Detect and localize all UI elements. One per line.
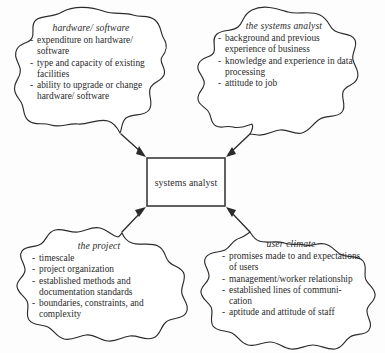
list-item-text: ability to upgrade or change hardware/ s… xyxy=(37,80,142,101)
bullet-dash: - xyxy=(222,251,225,262)
list-item: -knowledge and experience in data proces… xyxy=(218,56,354,79)
list-item: -established lines of communi- cation xyxy=(222,285,366,308)
bullet-dash: - xyxy=(30,58,33,69)
arrow-line-systems-analyst xyxy=(231,134,250,152)
arrow-line-user-climate xyxy=(231,212,250,232)
list-item: -ability to upgrade or change hardware/ … xyxy=(30,80,154,103)
blob-list-hardware-software: -expenditure on hardware/ software -type… xyxy=(22,35,154,103)
bullet-dash: - xyxy=(222,307,225,318)
list-item-text: established lines of communi- cation xyxy=(229,285,342,306)
list-item-text: project organization xyxy=(39,264,114,274)
bullet-dash: - xyxy=(222,285,225,296)
list-item-text: aptitude and attitude of staff xyxy=(229,307,335,317)
arrow-head-the-project xyxy=(135,207,146,217)
bullet-dash: - xyxy=(32,298,35,309)
list-item-text: promises made to and expectations of use… xyxy=(229,251,360,272)
list-item: -type and capacity of existing facilitie… xyxy=(30,58,154,81)
list-item: -promises made to and expectations of us… xyxy=(222,251,366,274)
list-item-text: expenditure on hardware/ software xyxy=(37,35,133,56)
list-item: -expenditure on hardware/ software xyxy=(30,35,154,58)
bullet-dash: - xyxy=(32,264,35,275)
blob-the-project: the project -timescale -project organiza… xyxy=(22,240,174,321)
bullet-dash: - xyxy=(218,33,221,44)
bullet-dash: - xyxy=(32,276,35,287)
blob-title-user-climate: user climate xyxy=(214,238,366,249)
arrow-head-hardware-software xyxy=(136,146,146,157)
list-item: -boundaries, constraints, and complexity xyxy=(32,298,174,321)
list-item-text: knowledge and experience in data process… xyxy=(225,56,353,77)
bullet-dash: - xyxy=(32,253,35,264)
bullet-dash: - xyxy=(30,35,33,46)
blob-list-user-climate: -promises made to and expectations of us… xyxy=(214,251,366,319)
blob-hardware-software: hardware/ software -expenditure on hardw… xyxy=(22,22,154,103)
list-item-text: established methods and documentation st… xyxy=(39,276,132,297)
list-item-text: background and previous experience of bu… xyxy=(225,33,320,54)
list-item-text: boundaries, constraints, and complexity xyxy=(39,298,144,319)
bullet-dash: - xyxy=(30,80,33,91)
blob-systems-analyst: the systems analyst -background and prev… xyxy=(212,20,354,89)
list-item: -background and previous experience of b… xyxy=(218,33,354,56)
blob-list-systems-analyst: -background and previous experience of b… xyxy=(212,33,354,89)
bullet-dash: - xyxy=(218,56,221,67)
list-item: -project organization xyxy=(32,264,174,275)
blob-user-climate: user climate -promises made to and expec… xyxy=(214,238,366,319)
list-item: -management/worker relationship xyxy=(222,274,366,285)
blob-title-systems-analyst: the systems analyst xyxy=(212,20,354,31)
center-box-label: systems analyst xyxy=(147,158,225,206)
list-item: -established methods and documentation s… xyxy=(32,276,174,299)
blob-list-the-project: -timescale -project organization -establ… xyxy=(22,253,174,321)
list-item: -attitude to job xyxy=(218,78,354,89)
bullet-dash: - xyxy=(218,78,221,89)
diagram-canvas: systems analyst hardware/ software -expe… xyxy=(0,0,385,353)
list-item-text: timescale xyxy=(39,253,74,263)
list-item-text: management/worker relationship xyxy=(229,274,353,284)
list-item-text: attitude to job xyxy=(225,78,277,88)
blob-title-the-project: the project xyxy=(22,240,174,251)
blob-title-hardware-software: hardware/ software xyxy=(22,22,154,33)
list-item-text: type and capacity of existing facilities xyxy=(37,58,145,79)
bullet-dash: - xyxy=(222,274,225,285)
list-item: -timescale xyxy=(32,253,174,264)
list-item: -aptitude and attitude of staff xyxy=(222,307,366,318)
